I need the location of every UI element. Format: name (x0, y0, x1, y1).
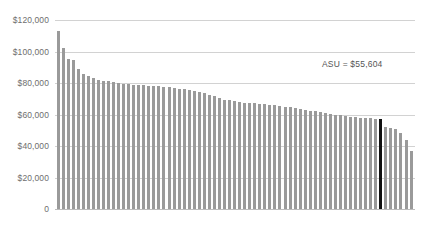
bar (147, 86, 150, 209)
bar (384, 127, 387, 209)
bar (152, 86, 155, 209)
bar (410, 151, 413, 209)
bar (329, 114, 332, 209)
bar (394, 129, 397, 209)
bar (122, 84, 125, 209)
bar (284, 107, 287, 209)
bar (364, 118, 367, 209)
bar (294, 108, 297, 209)
y-axis-tick-label: $40,000 (18, 141, 49, 151)
bar (102, 81, 105, 209)
bar (369, 118, 372, 209)
bar (87, 76, 90, 209)
y-axis-tick-label: $120,000 (13, 15, 49, 25)
bar (57, 31, 60, 209)
bar (258, 104, 261, 209)
bar (405, 140, 408, 209)
bar (319, 112, 322, 209)
bar (142, 85, 145, 209)
y-axis-tick-label: $80,000 (18, 78, 49, 88)
figure-caption (4, 225, 421, 234)
bar (92, 78, 95, 209)
bar (304, 110, 307, 209)
bar-highlighted (379, 119, 382, 209)
y-axis-tick-label: $100,000 (13, 47, 49, 57)
bar (344, 116, 347, 209)
bar (253, 103, 256, 209)
bar (228, 100, 231, 209)
bar (97, 80, 100, 209)
bar-chart: $120,000$100,000$80,000$60,000$40,000$20… (0, 0, 425, 218)
bar (117, 83, 120, 209)
bar (107, 81, 110, 209)
bar (198, 92, 201, 209)
bar (309, 111, 312, 209)
bar (324, 113, 327, 209)
bar (233, 101, 236, 209)
bar (162, 87, 165, 209)
bar (62, 48, 65, 209)
bar (289, 107, 292, 209)
y-axis-tick-label: 0 (44, 204, 49, 214)
bar (263, 104, 266, 209)
bar (178, 89, 181, 209)
bar (203, 93, 206, 209)
bar (223, 100, 226, 209)
bar (132, 85, 135, 209)
bar (188, 90, 191, 209)
bar (389, 128, 392, 209)
bar (339, 115, 342, 209)
bar (173, 88, 176, 209)
y-axis-tick-label: $60,000 (18, 110, 49, 120)
bar (359, 118, 362, 209)
bar (208, 95, 211, 209)
bar (399, 133, 402, 209)
asu-annotation-label: ASU = $55,604 (322, 59, 383, 69)
bar (67, 59, 70, 209)
bar (248, 103, 251, 209)
y-axis: $120,000$100,000$80,000$60,000$40,000$20… (0, 0, 52, 218)
bar (268, 105, 271, 209)
bar (299, 109, 302, 209)
bar (314, 111, 317, 209)
bar (137, 85, 140, 209)
bar (334, 115, 337, 210)
bar (193, 91, 196, 209)
bar (77, 69, 80, 209)
y-axis-tick-label: $20,000 (18, 173, 49, 183)
bar (72, 60, 75, 209)
bar (243, 103, 246, 209)
bar (82, 74, 85, 209)
bar (168, 87, 171, 209)
plot-area (56, 20, 414, 209)
chart-screenshot: $120,000$100,000$80,000$60,000$40,000$20… (0, 0, 425, 234)
bar (127, 84, 130, 209)
gridline (55, 209, 415, 210)
bar (374, 119, 377, 209)
bar (112, 82, 115, 209)
bar (349, 117, 352, 209)
bar (218, 98, 221, 209)
bar (183, 89, 186, 209)
bar (278, 106, 281, 209)
bar (157, 86, 160, 209)
bar (354, 117, 357, 209)
bar (213, 96, 216, 209)
bar (273, 105, 276, 209)
bar (238, 102, 241, 209)
